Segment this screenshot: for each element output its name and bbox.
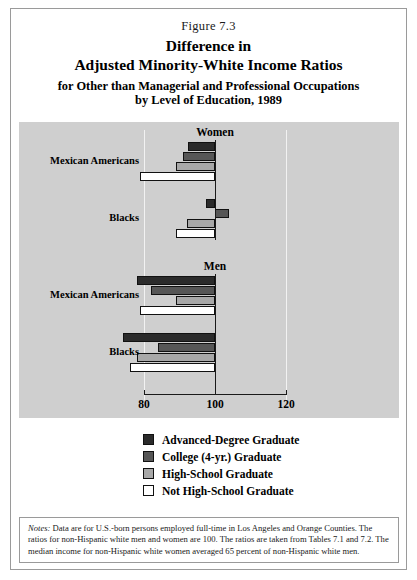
figure-title-block: Figure 7.3 Difference in Adjusted Minori… xyxy=(11,9,406,108)
chart-group-title: Women xyxy=(155,126,275,138)
legend-swatch-icon xyxy=(143,451,154,462)
chart-bar xyxy=(137,353,215,362)
chart-x-axis-tick xyxy=(286,390,287,395)
chart-baseline xyxy=(215,274,216,374)
figure-card: Figure 7.3 Difference in Adjusted Minori… xyxy=(10,8,407,570)
legend-swatch-icon xyxy=(143,485,154,496)
figure-notes-label: Notes: xyxy=(28,523,50,533)
legend-item[interactable]: Advanced-Degree Graduate xyxy=(11,431,406,448)
chart-x-axis-tick-label: 120 xyxy=(266,398,306,410)
figure-subtitle-line-1: for Other than Managerial and Profession… xyxy=(11,79,406,94)
chart-baseline xyxy=(215,140,216,240)
chart-legend: Advanced-Degree GraduateCollege (4-yr.) … xyxy=(11,431,406,499)
chart-category-label: Mexican Americans xyxy=(19,289,139,300)
chart-bar xyxy=(151,286,215,295)
legend-item-label: High-School Graduate xyxy=(162,468,273,480)
chart-bar xyxy=(187,219,215,228)
chart-bar xyxy=(176,162,215,171)
chart-bar xyxy=(188,142,215,151)
chart-bar xyxy=(215,209,229,218)
figure-notes-text: Notes: Data are for U.S.-born persons em… xyxy=(28,523,390,557)
chart-bar xyxy=(206,199,215,208)
chart-category-label: Blacks xyxy=(19,212,139,223)
chart-gridline xyxy=(286,130,287,400)
chart-bar xyxy=(183,152,215,161)
figure-notes-box: Notes: Data are for U.S.-born persons em… xyxy=(19,517,399,563)
legend-swatch-icon xyxy=(143,468,154,479)
chart-bar xyxy=(158,343,215,352)
chart-bar xyxy=(140,306,215,315)
chart-bar xyxy=(130,363,215,372)
chart-bar xyxy=(176,296,215,305)
chart-plot-area: WomenMexican AmericansBlacksMenMexican A… xyxy=(19,122,399,418)
legend-item-label: Advanced-Degree Graduate xyxy=(162,434,299,446)
figure-title-line-2: Adjusted Minority-White Income Ratios xyxy=(11,56,406,74)
figure-subtitle-line-2: by Level of Education, 1989 xyxy=(11,93,406,108)
figure-title-line-1: Difference in xyxy=(11,37,406,55)
chart-category-label: Blacks xyxy=(19,346,139,357)
chart-x-axis-tick-label: 80 xyxy=(124,398,164,410)
chart-x-axis-tick xyxy=(144,390,145,395)
chart-category-label: Mexican Americans xyxy=(19,155,139,166)
legend-item[interactable]: High-School Graduate xyxy=(11,465,406,482)
chart-baseline-extension xyxy=(215,374,216,394)
chart-x-axis-tick-label: 100 xyxy=(195,398,235,410)
chart-bar xyxy=(137,276,215,285)
legend-item-label: Not High-School Graduate xyxy=(162,485,294,497)
legend-item[interactable]: College (4-yr.) Graduate xyxy=(11,448,406,465)
chart-group-title: Men xyxy=(155,260,275,272)
figure-notes-body: Data are for U.S.-born persons employed … xyxy=(28,523,389,556)
chart-bar xyxy=(176,229,215,238)
figure-number: Figure 7.3 xyxy=(11,19,406,34)
legend-swatch-icon xyxy=(143,434,154,445)
legend-item-label: College (4-yr.) Graduate xyxy=(162,451,281,463)
legend-item[interactable]: Not High-School Graduate xyxy=(11,482,406,499)
chart-bar xyxy=(123,333,215,342)
chart-bar xyxy=(140,172,215,181)
